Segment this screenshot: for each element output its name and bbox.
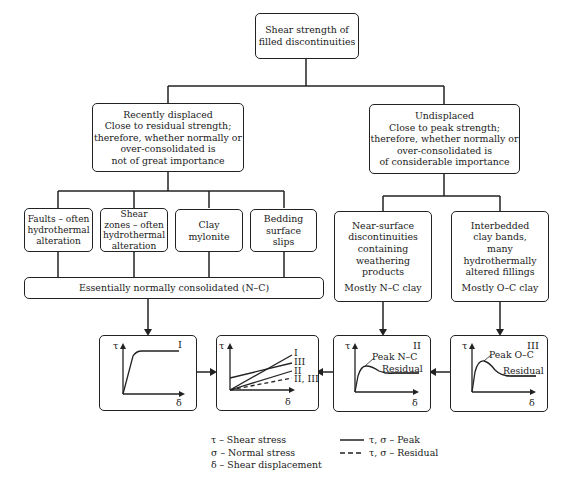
node-interbedded: Interbedded clay bands, many hydrotherma… — [451, 211, 549, 302]
node-line: Near-surface — [352, 220, 414, 232]
node-line: discontinuities — [348, 231, 418, 243]
node-line: hydrothermal — [27, 225, 89, 236]
tau-axis-label: τ — [219, 340, 224, 351]
node-line: containing — [358, 243, 408, 255]
node-line: hydrothermally — [463, 255, 536, 267]
legend-label: τ, σ – Peak — [369, 434, 420, 447]
node-line: Recently displaced — [123, 109, 213, 121]
node-line: Undisplaced — [415, 110, 474, 122]
tau-axis-label: τ — [113, 340, 118, 351]
chart-label: II — [413, 340, 421, 351]
node-line: alteration — [112, 241, 157, 252]
root-line: filled discontinuities — [259, 36, 356, 48]
tau-axis-label: τ — [345, 340, 350, 351]
chart-I: τ δ I — [99, 335, 197, 411]
chart-combined: τ δ I III II II, III — [216, 335, 319, 411]
legend-item-residual: τ, σ – Residual — [339, 447, 438, 460]
node-line: many — [487, 243, 513, 255]
node-faults: Faults – often hydrothermal alteration — [24, 208, 93, 252]
tau-axis-label: τ — [462, 340, 467, 351]
node-line: Essentially normally consolidated (N–C) — [79, 282, 269, 294]
node-line: Shear — [121, 209, 148, 220]
residual-label: Residual — [503, 365, 544, 376]
node-line: of considerable importance — [379, 156, 509, 168]
node-line: slips — [273, 236, 295, 248]
delta-axis-label: δ — [285, 396, 291, 407]
root-node-shear-strength: Shear strength of filled discontinuities — [255, 13, 359, 59]
node-line: Bedding — [264, 213, 303, 225]
node-clay-mylonite: Clay mylonite — [175, 209, 243, 252]
node-line: Clay — [198, 219, 219, 231]
node-line: Close to peak strength; — [389, 122, 500, 134]
node-line: zones – often — [104, 220, 164, 231]
root-line: Shear strength of — [265, 24, 349, 36]
legend-item: σ – Normal stress — [211, 447, 322, 460]
legend-lines: τ, σ – Peak τ, σ – Residual — [339, 434, 438, 459]
node-line: over-consolidated is — [120, 143, 215, 155]
legend-symbols: τ – Shear stress σ – Normal stress δ – S… — [211, 434, 322, 472]
node-line: therefore, whether normally or — [94, 132, 242, 144]
node-line: Close to residual strength; — [105, 120, 232, 132]
dashed-line-icon — [339, 449, 365, 457]
node-line: hydrothermal — [103, 230, 165, 241]
node-line: therefore, whether normally or — [371, 133, 519, 145]
node-normally-consolidated: Essentially normally consolidated (N–C) — [24, 277, 324, 299]
node-line: altered fillings — [465, 266, 534, 278]
node-near-surface: Near-surface discontinuities containing … — [334, 211, 432, 302]
node-footer: Mostly O–C clay — [462, 282, 539, 294]
node-line: not of great importance — [111, 155, 224, 167]
series-label: II, III — [294, 373, 319, 384]
residual-label: Residual — [382, 363, 423, 374]
solid-line-icon — [339, 436, 365, 444]
legend-item: τ – Shear stress — [211, 434, 322, 447]
node-bedding-surface-slips: Bedding surface slips — [250, 209, 317, 252]
node-line: Interbedded — [471, 220, 530, 232]
peak-label: Peak O–C — [489, 349, 534, 360]
node-line: clay bands, — [473, 231, 527, 243]
node-line: products — [362, 266, 404, 278]
legend-label: τ, σ – Residual — [369, 447, 438, 460]
node-footer: Mostly N–C clay — [344, 282, 421, 294]
delta-axis-label: δ — [529, 397, 535, 408]
delta-axis-label: δ — [176, 397, 182, 408]
node-line: mylonite — [188, 231, 229, 243]
chart-III: τ δ III Peak O–C Residual — [450, 335, 548, 412]
node-shear-zones: Shear zones – often hydrothermal alterat… — [100, 208, 168, 252]
node-line: alteration — [36, 236, 81, 247]
legend-item-peak: τ, σ – Peak — [339, 434, 438, 447]
peak-label: Peak N–C — [372, 351, 417, 362]
node-line: Faults – often — [28, 214, 90, 225]
chart-II: τ δ II Peak N–C Residual — [333, 335, 431, 412]
node-line: over-consolidated is — [397, 145, 492, 157]
delta-axis-label: δ — [412, 397, 418, 408]
node-line: surface — [266, 225, 301, 237]
node-recently-displaced: Recently displaced Close to residual str… — [92, 103, 244, 172]
node-undisplaced: Undisplaced Close to peak strength; ther… — [369, 104, 520, 174]
chart-label: I — [178, 339, 182, 350]
legend-item: δ – Shear displacement — [211, 459, 322, 472]
node-line: weathering — [356, 255, 410, 267]
